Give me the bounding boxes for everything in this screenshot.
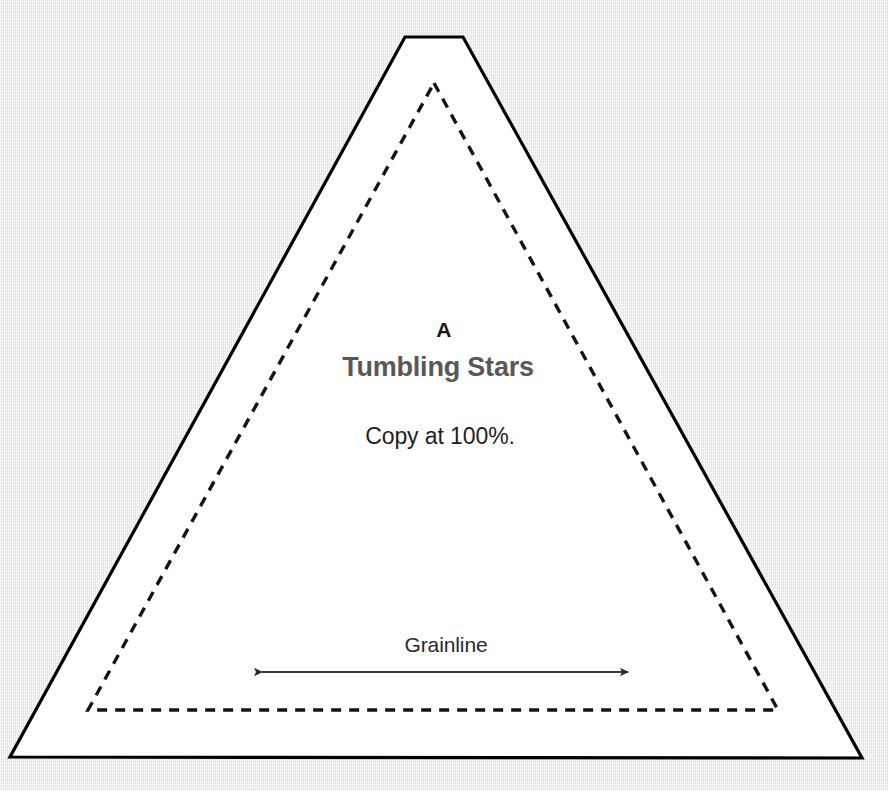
pattern-drawing xyxy=(0,0,888,791)
pattern-sheet: A Tumbling Stars Copy at 100%. Grainline xyxy=(0,0,888,791)
cut-line-outline xyxy=(10,37,862,758)
